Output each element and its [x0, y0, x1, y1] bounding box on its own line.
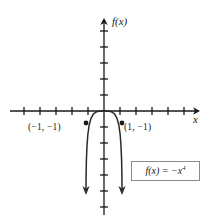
equation-text: f(x) = −x4 [145, 166, 185, 176]
equation-exponent: 4 [182, 164, 185, 171]
function-graph-figure: f(x) x (−1, −1) (1, −1) f(x) = −x4 [0, 0, 209, 223]
point-label-minus1-minus1: (−1, −1) [28, 123, 61, 133]
plot-canvas [0, 0, 209, 223]
y-axis-label: f(x) [112, 16, 127, 27]
equation-base: f(x) = −x [145, 165, 182, 176]
point-label-1-minus1: (1, −1) [124, 123, 151, 133]
equation-callout-box: f(x) = −x4 [131, 161, 200, 181]
point-minus1-minus1 [84, 121, 89, 126]
x-axis-label: x [193, 114, 198, 125]
